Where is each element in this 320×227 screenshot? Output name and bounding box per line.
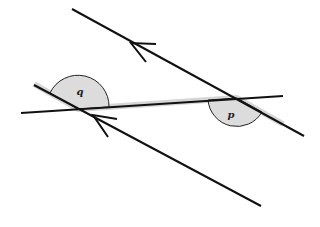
angle-q-label: q — [77, 86, 84, 97]
parallel-lines-diagram: q p — [0, 0, 320, 227]
angle-p-sector — [208, 98, 262, 126]
angle-p-label: p — [228, 109, 235, 120]
